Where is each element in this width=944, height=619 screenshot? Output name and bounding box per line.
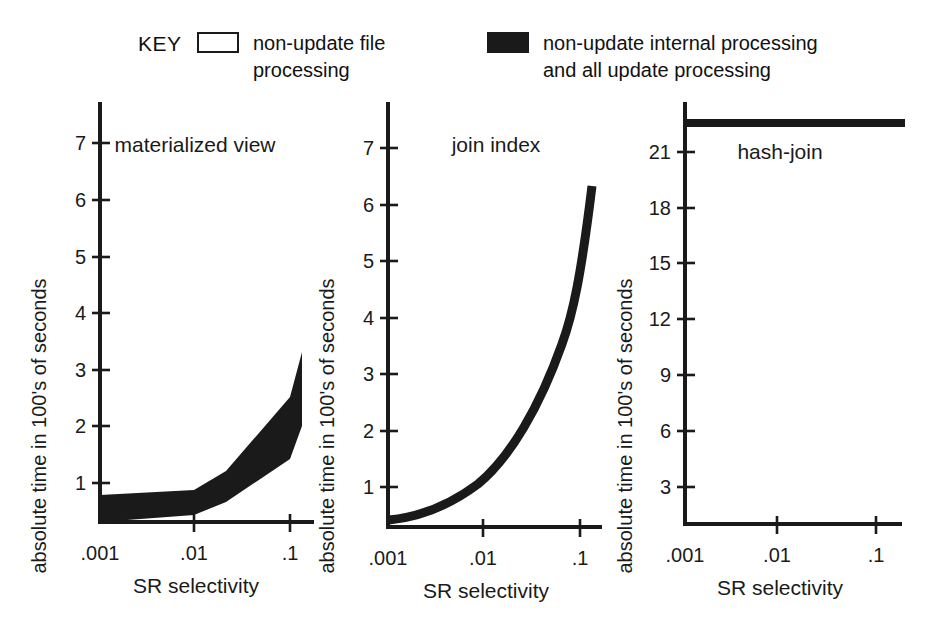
y-tick-label: 1 [363,476,374,498]
y-tick-label: 2 [75,415,86,437]
y-tick-label: 7 [363,137,374,159]
y-axis-title: absolute time in 100's of seconds [28,278,50,573]
y-tick-label: 2 [363,420,374,442]
series-bar-hash-join [685,119,905,127]
y-axis-ticks: 7 6 5 4 3 2 1 [363,137,398,498]
legend-item-label: non-update internal processing and all u… [543,30,818,84]
series-curve-join-index [389,186,592,520]
panel-title: materialized view [114,133,276,156]
x-tick-label: .01 [180,542,208,564]
y-tick-label: 21 [649,141,671,163]
y-axis-ticks: 21 18 15 12 9 6 3 [649,141,695,498]
chart-key-legend: KEY non-update file processing non-updat… [0,0,944,100]
y-tick-label: 5 [363,250,374,272]
y-tick-label: 5 [75,246,86,268]
panel-title: hash-join [737,140,822,163]
y-tick-label: 12 [649,308,671,330]
y-tick-label: 3 [363,363,374,385]
x-tick-label: .1 [572,547,589,569]
x-tick-label: .001 [666,544,705,566]
y-axis-ticks: 7 6 5 4 3 2 1 [75,132,110,494]
y-tick-label: 7 [75,132,86,154]
x-axis-title: SR selectivity [133,574,260,597]
open-rectangle-swatch-icon [197,32,239,53]
y-axis-title: absolute time in 100's of seconds [316,278,338,573]
legend-item-non-update-file-processing: non-update file processing [197,30,385,84]
chart-panel-materialized-view: absolute time in 100's of seconds 7 6 5 … [0,96,320,616]
y-tick-label: 3 [75,359,86,381]
chart-panel-join-index: absolute time in 100's of seconds 7 6 5 … [300,96,620,616]
key-label: KEY [138,32,182,56]
y-tick-label: 18 [649,197,671,219]
chart-panel-hash-join: absolute time in 100's of seconds 21 18 … [600,96,944,616]
y-axis-title: absolute time in 100's of seconds [614,278,636,573]
y-tick-label: 1 [75,472,86,494]
chart-svg: absolute time in 100's of seconds 7 6 5 … [0,96,320,616]
y-tick-label: 6 [363,194,374,216]
x-tick-label: .01 [469,547,497,569]
filled-rectangle-swatch-icon [487,32,529,53]
x-tick-label: .001 [81,542,120,564]
x-tick-label: .1 [282,542,299,564]
y-tick-label: 15 [649,252,671,274]
y-tick-label: 3 [660,476,671,498]
chart-svg: absolute time in 100's of seconds 7 6 5 … [300,96,620,616]
x-axis-title: SR selectivity [717,576,844,599]
y-tick-label: 4 [75,302,86,324]
x-tick-label: .01 [763,544,791,566]
y-tick-label: 9 [660,364,671,386]
x-tick-label: .1 [868,544,885,566]
y-tick-label: 6 [75,189,86,211]
series-band-non-update-internal [100,352,302,522]
y-tick-label: 4 [363,307,374,329]
y-tick-label: 6 [660,420,671,442]
x-tick-label: .001 [369,547,408,569]
chart-svg: absolute time in 100's of seconds 21 18 … [600,96,944,616]
legend-item-label: non-update file processing [253,30,385,84]
panel-title: join index [451,133,541,156]
x-axis-title: SR selectivity [423,579,550,602]
legend-item-non-update-internal-and-update-processing: non-update internal processing and all u… [487,30,818,84]
